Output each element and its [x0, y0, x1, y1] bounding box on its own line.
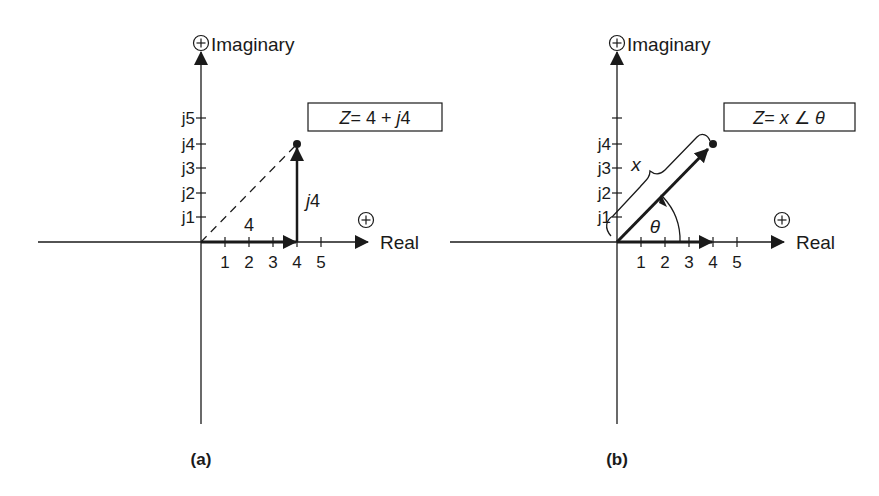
- angle-label: θ: [650, 216, 661, 237]
- caption-b: (b): [606, 450, 628, 469]
- imag-tick-label: j3: [597, 159, 611, 178]
- real-axis-label: Real: [380, 232, 419, 253]
- imag-tick-label: j3: [181, 159, 195, 178]
- diagram-a: Imaginary Real 1 2 3 4 5: [38, 34, 442, 469]
- equation-text: Z= 4 + j4: [338, 108, 410, 128]
- imag-tick-label: j5: [181, 109, 195, 128]
- diagram-b: Imaginary Real 1 2 3 4 5: [450, 34, 855, 469]
- imaginary-axis-label: Imaginary: [627, 34, 711, 55]
- imag-tick-label: j2: [597, 184, 611, 203]
- real-plus-icon: [775, 213, 790, 228]
- complex-plane-figure: Imaginary Real 1 2 3 4 5: [0, 0, 879, 496]
- real-tick-label: 5: [316, 253, 325, 272]
- imag-plus-icon: [194, 36, 209, 51]
- imag-plus-icon: [610, 36, 625, 51]
- real-tick-label: 1: [636, 253, 645, 272]
- real-tick-label: 4: [292, 253, 301, 272]
- real-axis-label: Real: [796, 232, 835, 253]
- imag-tick-label: j4: [181, 135, 195, 154]
- imag-tick-label: j4: [597, 135, 611, 154]
- caption-a: (a): [191, 450, 212, 469]
- phasor-point: [293, 140, 301, 148]
- real-tick-label: 3: [684, 253, 693, 272]
- real-tick-label: 5: [732, 253, 741, 272]
- real-tick-label: 2: [660, 253, 669, 272]
- real-tick-label: 3: [268, 253, 277, 272]
- angle-arc: [663, 197, 680, 242]
- real-tick-label: 4: [708, 253, 717, 272]
- real-component-label: 4: [244, 215, 254, 235]
- imag-component-label: j4: [303, 191, 320, 211]
- real-plus-icon: [359, 213, 374, 228]
- real-tick-label: 1: [220, 253, 229, 272]
- magnitude-label: x: [630, 154, 642, 175]
- phasor-point: [709, 140, 717, 148]
- imag-tick-label: j1: [597, 208, 611, 227]
- equation-text: Z= x ∠ θ: [752, 108, 825, 128]
- imaginary-axis-label: Imaginary: [211, 34, 295, 55]
- imag-tick-label: j1: [181, 208, 195, 227]
- imag-tick-label: j2: [181, 184, 195, 203]
- real-tick-label: 2: [244, 253, 253, 272]
